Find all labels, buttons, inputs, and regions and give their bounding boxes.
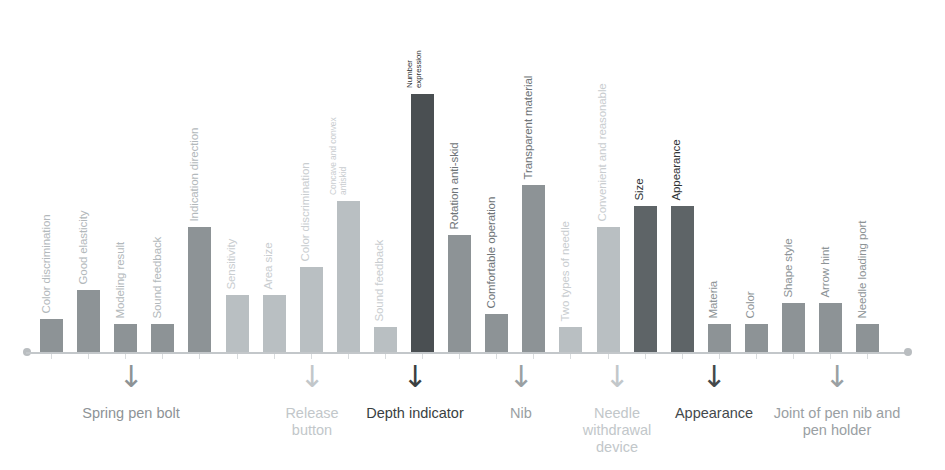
bar-category-label: Color discrimination [39,214,52,313]
bar[interactable] [708,324,731,353]
axis-tick [237,354,238,359]
group-label: Appearance [656,405,772,422]
bar-slot[interactable]: Sensitivity [226,0,249,353]
group-arrow-icon: ↓ [118,362,144,392]
bar-category-label: Sensitivity [225,238,238,289]
bar[interactable] [263,295,286,353]
axis-tick [459,354,460,359]
bar[interactable] [411,94,434,353]
axis-tick [162,354,163,359]
bar-chart: Color discriminationGood elasticityModel… [0,0,945,470]
axis-tick [719,354,720,359]
bar-category-label: Two types of needle [558,221,571,321]
bar[interactable] [745,324,768,353]
bar-category-label: Sound feedback [373,239,386,321]
bar-slot[interactable]: Materia [708,0,731,353]
bar-slot[interactable]: Good elasticity [77,0,100,353]
bar-slot[interactable]: Comfortable operation [485,0,508,353]
group-arrow-icon: ↓ [824,362,850,392]
group-arrow-icon: ↓ [299,362,325,392]
bar-slot[interactable]: Appearance [671,0,694,353]
bar-slot[interactable]: Needle loading port [856,0,879,353]
bar-category-label: Modeling result [113,242,126,319]
bar-category-label: Size [633,178,646,200]
bar[interactable] [374,327,397,353]
bar-category-label: Materia [707,280,720,318]
axis-endpoint-right [904,348,912,356]
bar[interactable] [819,303,842,353]
group-arrow-icon: ↓ [701,362,727,392]
bar[interactable] [337,201,360,353]
bar[interactable] [151,324,174,353]
bar-slot[interactable]: Shape style [782,0,805,353]
axis-tick [51,354,52,359]
bar-category-label: Comfortable operation [484,196,497,308]
bar[interactable] [40,319,63,353]
axis-tick [274,354,275,359]
bar-slot[interactable]: Concave and convex antiskid [337,0,360,353]
bar[interactable] [671,206,694,353]
bar[interactable] [226,295,249,353]
axis-tick [608,354,609,359]
bar-category-label: Arrow hint [818,246,831,297]
group-label: Spring pen bolt [46,405,216,422]
bar[interactable] [448,235,471,353]
axis-tick [682,354,683,359]
bar[interactable] [114,324,137,353]
bar[interactable] [782,303,805,353]
bar-slot[interactable]: Color [745,0,768,353]
group-label: Joint of pen nib and pen holder [762,405,912,439]
bar-category-label: Concave and convex antiskid [329,103,348,195]
bar[interactable] [522,185,545,353]
bar[interactable] [559,327,582,353]
axis-tick [496,354,497,359]
bar-slot[interactable]: Convenient and reasonable [597,0,620,353]
group-arrow-icon: ↓ [508,362,534,392]
axis-tick [867,354,868,359]
bar-slot[interactable]: Sound feedback [151,0,174,353]
bar-slot[interactable]: Indication direction [188,0,211,353]
axis-tick [199,354,200,359]
bar-slot[interactable]: Modeling result [114,0,137,353]
axis-tick [533,354,534,359]
group-label: Release button [264,405,360,439]
bar-category-label: Appearance [670,139,683,200]
bar-category-label: Transparent material [521,75,534,179]
bar-category-label: Good elasticity [76,210,89,284]
bar-slot[interactable]: Transparent material [522,0,545,353]
bar-category-label: Area size [262,242,275,289]
bar-slot[interactable]: Size [634,0,657,353]
axis-tick [793,354,794,359]
bar-category-label: Convenient and reasonable [596,83,609,221]
bar[interactable] [485,314,508,353]
bar[interactable] [597,227,620,353]
bar-slot[interactable]: Color discrimination [300,0,323,353]
axis-tick [125,354,126,359]
bar-slot[interactable]: Color discrimination [40,0,63,353]
bar-category-label: Shape style [781,238,794,297]
axis-tick [385,354,386,359]
bar-slot[interactable]: Arrow hint [819,0,842,353]
bar-category-label: Sound feedback [150,236,163,318]
group-label: Nib [473,405,569,422]
axis-tick [645,354,646,359]
x-axis-line [26,352,910,354]
bar-category-label: Needle loading port [855,220,868,318]
bar-slot[interactable]: Number expression [411,0,434,353]
bar[interactable] [300,267,323,353]
bar-slot[interactable]: Two types of needle [559,0,582,353]
bar[interactable] [634,206,657,353]
bar[interactable] [856,324,879,353]
group-arrow-icon: ↓ [402,362,428,392]
plot-area: Color discriminationGood elasticityModel… [0,0,945,353]
bar-category-label: Indication direction [187,127,200,221]
axis-tick [311,354,312,359]
bar-slot[interactable]: Rotation anti-skid [448,0,471,353]
bar[interactable] [188,227,211,353]
axis-tick [570,354,571,359]
bar-category-label: Color [744,291,757,318]
group-arrow-icon: ↓ [604,362,630,392]
bar[interactable] [77,290,100,353]
bar-slot[interactable]: Area size [263,0,286,353]
bar-slot[interactable]: Sound feedback [374,0,397,353]
